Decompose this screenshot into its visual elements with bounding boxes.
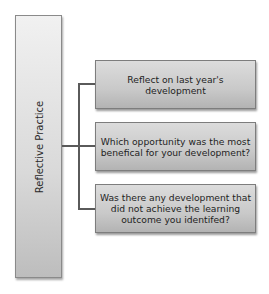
child-node-most-beneficial: Which opportunity was the most benefical… bbox=[95, 122, 256, 171]
connector-branch-2 bbox=[78, 145, 95, 147]
connector-branch-3 bbox=[78, 208, 95, 210]
child-node-label: Which opportunity was the most benefical… bbox=[99, 136, 252, 158]
root-node-reflective-practice: Reflective Practice bbox=[15, 15, 62, 278]
child-node-reflect-last-year: Reflect on last year's development bbox=[95, 60, 256, 109]
child-node-label: Was there any development that did not a… bbox=[99, 192, 252, 225]
child-node-label: Reflect on last year's development bbox=[99, 74, 252, 96]
root-node-label: Reflective Practice bbox=[33, 100, 44, 193]
connector-branch-1 bbox=[78, 83, 95, 85]
child-node-unachieved-outcome: Was there any development that did not a… bbox=[95, 184, 256, 233]
